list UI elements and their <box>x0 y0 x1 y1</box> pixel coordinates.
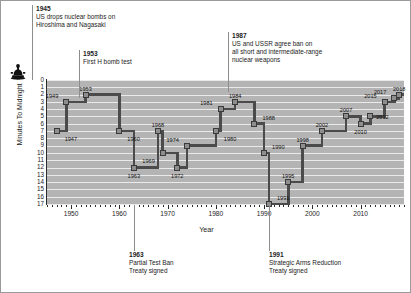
data-point-marker <box>343 113 349 119</box>
gridline <box>47 197 404 198</box>
x-minor-tick <box>250 205 251 207</box>
x-minor-tick <box>259 205 260 207</box>
x-minor-tick <box>303 205 304 207</box>
data-point-label: 1960 <box>127 136 139 142</box>
data-point-label: 1984 <box>229 93 241 99</box>
x-minor-tick <box>279 205 280 207</box>
annotation-year: 1991 <box>269 251 341 259</box>
x-minor-tick <box>274 205 275 207</box>
x-minor-tick <box>143 205 144 207</box>
x-minor-tick <box>230 205 231 207</box>
series-segment <box>187 144 216 147</box>
x-minor-tick <box>390 205 391 207</box>
x-minor-tick <box>124 205 125 207</box>
chart-figure: Minutes To Midnight Year 012345678910111… <box>0 0 411 293</box>
data-point-marker <box>218 106 224 112</box>
annotation-text-line: Treaty signed <box>269 267 341 275</box>
gridline <box>47 131 404 132</box>
annotation-year: 1963 <box>129 251 174 259</box>
data-point-label: 1988 <box>262 115 274 121</box>
x-minor-tick <box>61 205 62 207</box>
x-minor-tick <box>115 205 116 207</box>
data-point-marker <box>319 128 325 134</box>
gridline <box>47 124 404 125</box>
gridline <box>47 153 404 154</box>
x-minor-tick <box>57 205 58 207</box>
data-point-label: 1974 <box>166 137 178 143</box>
data-point-label: 1980 <box>224 136 236 142</box>
data-point-label: 2017 <box>374 89 386 95</box>
data-point-label: 1947 <box>65 136 77 142</box>
x-minor-tick <box>380 205 381 207</box>
x-minor-tick <box>254 205 255 207</box>
x-minor-tick <box>240 205 241 207</box>
x-tick-label: 2000 <box>305 210 320 217</box>
x-major-tick <box>216 205 217 209</box>
x-minor-tick <box>375 205 376 207</box>
x-minor-tick <box>110 205 111 207</box>
x-minor-tick <box>105 205 106 207</box>
data-point-marker <box>116 128 122 134</box>
annotation-leader-line <box>269 205 270 251</box>
data-point-label: 2002 <box>316 122 328 128</box>
gridline <box>47 175 404 176</box>
y-tick-label: 15 <box>30 186 44 192</box>
annotation-text-line: all short and intermediate-range <box>232 48 322 56</box>
x-minor-tick <box>356 205 357 207</box>
data-point-marker <box>54 128 60 134</box>
x-minor-tick <box>81 205 82 207</box>
series-segment <box>322 130 346 133</box>
annotation-text-line: First H bomb test <box>83 58 132 66</box>
annotation-1987: 1987US and USSR agree ban onall short an… <box>228 32 322 92</box>
series-segment <box>118 93 121 132</box>
x-minor-tick <box>66 205 67 207</box>
data-point-marker <box>251 121 257 127</box>
annotation-year: 1945 <box>36 5 115 13</box>
series-segment <box>134 166 158 169</box>
annotation-year: 1953 <box>83 50 132 58</box>
x-minor-tick <box>394 205 395 207</box>
data-point-marker <box>382 99 388 105</box>
data-point-label: 1995 <box>282 173 294 179</box>
gridline <box>47 160 404 161</box>
annotation-1963: 1963Partial Test BanTreaty signed <box>126 251 174 275</box>
data-point-marker <box>160 150 166 156</box>
x-minor-tick <box>322 205 323 207</box>
x-minor-tick <box>351 205 352 207</box>
x-minor-tick <box>385 205 386 207</box>
x-minor-tick <box>187 205 188 207</box>
gridline <box>47 146 404 147</box>
x-tick-label: 1970 <box>160 210 175 217</box>
gridline <box>47 102 404 103</box>
data-point-label: 1963 <box>128 173 140 179</box>
gridline <box>47 189 404 190</box>
data-point-label: 2007 <box>340 107 352 113</box>
x-minor-tick <box>293 205 294 207</box>
y-axis-title: Minutes To Midnight <box>16 70 23 160</box>
x-minor-tick <box>341 205 342 207</box>
x-minor-tick <box>192 205 193 207</box>
y-tick-label: 16 <box>30 194 44 200</box>
data-point-marker <box>358 121 364 127</box>
x-minor-tick <box>47 205 48 207</box>
series-segment <box>268 152 271 206</box>
y-tick-label: 17 <box>30 201 44 207</box>
x-minor-tick <box>153 205 154 207</box>
y-tick-label: 13 <box>30 172 44 178</box>
annotation-1991: 1991Strategic Arms ReductionTreaty signe… <box>266 251 341 275</box>
x-minor-tick <box>139 205 140 207</box>
data-point-marker <box>63 99 69 105</box>
data-point-marker <box>155 128 161 134</box>
x-minor-tick <box>336 205 337 207</box>
data-point-marker <box>367 113 373 119</box>
data-point-label: 1949 <box>46 93 58 99</box>
data-point-label: 2012 <box>376 114 388 120</box>
data-point-label: 1991 <box>277 195 289 201</box>
x-minor-tick <box>370 205 371 207</box>
series-segment <box>301 144 304 183</box>
x-minor-tick <box>226 205 227 207</box>
x-minor-tick <box>197 205 198 207</box>
x-minor-tick <box>177 205 178 207</box>
x-major-tick <box>361 205 362 209</box>
data-point-marker <box>131 165 137 171</box>
